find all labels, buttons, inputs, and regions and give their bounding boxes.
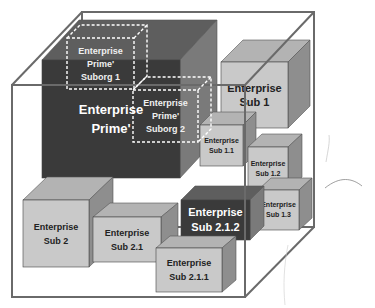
cube-label: Prime' <box>91 121 130 136</box>
cube-label: Enterprise <box>79 102 143 117</box>
cube-sub2-1-1: EnterpriseSub 2.1.1 <box>156 236 236 292</box>
cube-sub1-1: EnterpriseSub 1.1 <box>200 112 256 166</box>
cube-label: Sub 1.1 <box>209 147 234 154</box>
container-edge <box>245 227 314 297</box>
cube-front-face <box>93 217 161 262</box>
suborg-label: Suborg 1 <box>81 72 120 82</box>
cube-label: Enterprise <box>167 258 212 268</box>
cube-label: Enterprise <box>261 201 296 209</box>
suborg-label: Prime' <box>87 59 114 69</box>
suborg-label: Enterprise <box>78 46 123 56</box>
cube-label: Enterprise <box>204 137 239 145</box>
cube-label: Enterprise <box>34 222 79 232</box>
cube-sub1-3: EnterpriseSub 1.3 <box>258 178 312 230</box>
suborg-label: Suborg 2 <box>146 124 185 134</box>
cube-label: Sub 2.1.1 <box>169 272 209 282</box>
suborg-label: Prime' <box>152 111 179 121</box>
cube-sub2-1-2: EnterpriseSub 2.1.2 <box>181 186 264 240</box>
enterprise-diagram: EnterprisePrime'EnterpriseSub 1Enterpris… <box>0 0 375 308</box>
cube-label: Enterprise <box>227 82 281 94</box>
cube-front-face <box>23 200 89 267</box>
suborg-label: Enterprise <box>143 98 188 108</box>
cube-front-face <box>200 125 243 166</box>
cube-label: Enterprise <box>105 228 150 238</box>
cube-label: Sub 1.3 <box>266 211 291 218</box>
cube-prime: EnterprisePrime' <box>42 20 217 178</box>
cube-label: Sub 1.2 <box>256 170 281 177</box>
cube-top-face <box>181 186 264 200</box>
cube-front-face <box>156 248 222 292</box>
cube-label: Enterprise <box>251 160 286 168</box>
cube-label: Enterprise <box>188 206 242 218</box>
cube-label: Sub 2.1 <box>111 242 143 252</box>
cube-label: Sub 2.1.2 <box>191 221 239 233</box>
cube-label: Sub 2 <box>44 236 69 246</box>
